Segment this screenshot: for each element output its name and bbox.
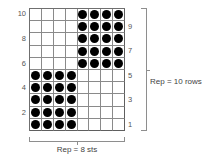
- stitch-cell-filled: [101, 58, 113, 70]
- stitch-cell-empty: [113, 94, 125, 106]
- stitch-cell-empty: [42, 46, 54, 58]
- right-row-number-column: 9 7 5 3 1: [128, 8, 142, 131]
- stitch-cell-filled: [89, 46, 101, 58]
- row-repeat-label: Rep = 10 rows: [150, 78, 202, 86]
- stitch-cell-empty: [78, 107, 90, 119]
- stitch-repeat-label: Rep = 8 sts: [29, 146, 125, 154]
- left-row-number-column: 10 8 6 4 2: [11, 8, 26, 131]
- stitch-cell-filled: [66, 119, 78, 131]
- stitch-cell-empty: [54, 33, 66, 45]
- stitch-cell-filled: [89, 33, 101, 45]
- stitch-cell-filled: [101, 46, 113, 58]
- stitch-cell-filled: [78, 21, 90, 33]
- stitch-cell-empty: [54, 9, 66, 21]
- stitch-cell-empty: [78, 94, 90, 106]
- stitch-cell-filled: [113, 21, 125, 33]
- stitch-cell-filled: [113, 9, 125, 21]
- stitch-cell-empty: [89, 107, 101, 119]
- stitch-cell-empty: [42, 9, 54, 21]
- stitch-cell-filled: [54, 82, 66, 94]
- stitch-cell-empty: [42, 21, 54, 33]
- stitch-cell-empty: [66, 58, 78, 70]
- row-number-right: 5: [128, 72, 132, 80]
- stitch-cell-empty: [89, 94, 101, 106]
- stitch-cell-filled: [89, 9, 101, 21]
- stitch-cell-filled: [54, 119, 66, 131]
- stitch-repeat-bracket: [29, 137, 125, 142]
- stitch-cell-empty: [30, 58, 42, 70]
- stitch-cell-filled: [78, 58, 90, 70]
- stitch-cell-filled: [30, 119, 42, 131]
- stitch-cell-empty: [66, 9, 78, 21]
- stitch-chart-figure: 10 8 6 4 2 9 7 5 3 1 Rep = 10 rows Rep =…: [0, 0, 214, 163]
- stitch-cell-filled: [42, 107, 54, 119]
- stitch-cell-empty: [89, 119, 101, 131]
- stitch-cell-empty: [54, 21, 66, 33]
- stitch-cell-filled: [66, 94, 78, 106]
- row-number-right: 3: [128, 96, 132, 104]
- stitch-cell-filled: [30, 107, 42, 119]
- stitch-cell-filled: [54, 94, 66, 106]
- stitch-cell-filled: [78, 9, 90, 21]
- row-number-left: 8: [22, 35, 26, 43]
- stitch-cell-empty: [78, 119, 90, 131]
- stitch-cell-filled: [113, 33, 125, 45]
- stitch-cell-empty: [101, 119, 113, 131]
- stitch-cell-filled: [54, 70, 66, 82]
- row-number-right: 9: [128, 23, 132, 31]
- stitch-cell-empty: [89, 82, 101, 94]
- stitch-cell-empty: [113, 107, 125, 119]
- stitch-cell-empty: [113, 70, 125, 82]
- stitch-cell-filled: [42, 94, 54, 106]
- stitch-cell-empty: [101, 107, 113, 119]
- row-number-right: 1: [128, 121, 132, 129]
- stitch-cell-empty: [30, 33, 42, 45]
- stitch-cell-filled: [66, 82, 78, 94]
- stitch-cell-filled: [42, 82, 54, 94]
- stitch-cell-empty: [89, 70, 101, 82]
- stitch-cell-filled: [30, 70, 42, 82]
- stitch-cell-empty: [113, 82, 125, 94]
- stitch-cell-filled: [30, 94, 42, 106]
- row-number-right: 7: [128, 47, 132, 55]
- stitch-cell-filled: [89, 21, 101, 33]
- row-repeat-bracket-tick: [146, 70, 150, 71]
- stitch-cell-filled: [42, 119, 54, 131]
- stitch-cell-filled: [101, 21, 113, 33]
- stitch-cell-empty: [30, 21, 42, 33]
- stitch-cell-empty: [66, 46, 78, 58]
- stitch-cell-filled: [78, 46, 90, 58]
- stitch-cell-filled: [42, 70, 54, 82]
- stitch-cell-empty: [101, 70, 113, 82]
- stitch-cell-filled: [66, 70, 78, 82]
- stitch-cell-filled: [66, 107, 78, 119]
- stitch-cell-empty: [54, 46, 66, 58]
- stitch-cell-empty: [54, 58, 66, 70]
- row-repeat-bracket: [141, 8, 147, 131]
- row-number-left: 6: [22, 60, 26, 68]
- stitch-cell-empty: [30, 46, 42, 58]
- stitch-cell-empty: [101, 82, 113, 94]
- row-number-left: 2: [22, 109, 26, 117]
- stitch-cell-empty: [42, 58, 54, 70]
- stitch-cell-empty: [66, 33, 78, 45]
- stitch-cell-filled: [30, 82, 42, 94]
- stitch-cell-empty: [78, 70, 90, 82]
- stitch-cell-empty: [101, 94, 113, 106]
- stitch-cell-empty: [113, 119, 125, 131]
- stitch-grid: [29, 8, 125, 131]
- stitch-cell-filled: [78, 33, 90, 45]
- stitch-cell-filled: [89, 58, 101, 70]
- stitch-cell-filled: [54, 107, 66, 119]
- stitch-cell-filled: [101, 9, 113, 21]
- row-number-left: 10: [18, 10, 26, 18]
- stitch-cell-filled: [113, 58, 125, 70]
- row-number-left: 4: [22, 84, 26, 92]
- stitch-cell-filled: [113, 46, 125, 58]
- stitch-cell-empty: [30, 9, 42, 21]
- stitch-cell-empty: [78, 82, 90, 94]
- stitch-cell-empty: [66, 21, 78, 33]
- stitch-cell-empty: [42, 33, 54, 45]
- stitch-cell-filled: [101, 33, 113, 45]
